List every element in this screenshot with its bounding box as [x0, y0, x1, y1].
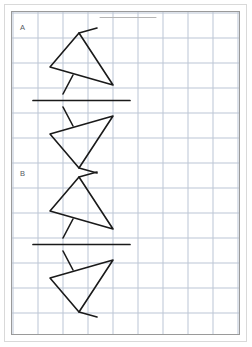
- graph-paper-grid: [12, 12, 239, 334]
- graph-paper-frame: [11, 11, 240, 335]
- section-label-b: B: [20, 170, 25, 178]
- section-label-a: A: [20, 24, 25, 32]
- worksheet-page: A B: [0, 0, 252, 347]
